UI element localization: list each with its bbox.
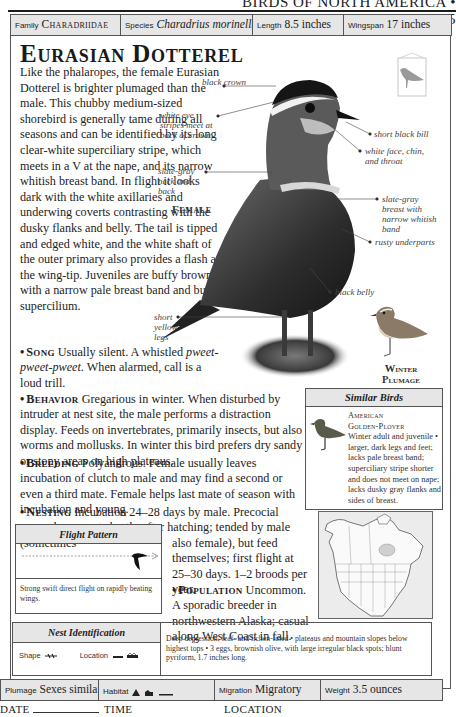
- plumage-label: Plumage: [5, 686, 37, 695]
- bullet-icon: •: [20, 392, 24, 406]
- similar-bird-entry: American Golden-Plover Winter adult and …: [348, 411, 442, 506]
- similar-bird-name-1: American: [348, 411, 442, 422]
- date-field[interactable]: DATE: [0, 703, 99, 715]
- golden-plover-illustration: [310, 417, 348, 451]
- bullet-icon: •: [20, 456, 24, 470]
- callout-short-yellow-legs: short yellow legs: [154, 312, 194, 342]
- species-label: Species: [125, 21, 153, 30]
- ground-scrape-nest-icon: [44, 652, 58, 660]
- nesting-key: Nesting: [26, 505, 71, 519]
- family-value: Charadriidae: [42, 18, 109, 30]
- migration-label: Migration: [219, 686, 252, 695]
- range-map: [318, 511, 433, 619]
- wingspan-label: Wingspan: [348, 21, 384, 30]
- migration-cell: Migration Migratory: [215, 680, 321, 700]
- length-cell: Length 8.5 inches: [253, 15, 344, 35]
- mountain-icon: [132, 689, 140, 696]
- bird-illustration-area: black crown white eye stripes meet at ba…: [160, 60, 400, 380]
- length-label: Length: [257, 21, 281, 30]
- breeding-key: Breeding: [26, 456, 79, 470]
- population-key: Population: [178, 583, 242, 597]
- nest-icons-row: Shape Location: [13, 643, 160, 668]
- nest-description: Deep depression, leaf- and lichen-lined …: [161, 623, 431, 675]
- tundra-icon: [145, 690, 153, 696]
- field-guide-bird-icon: [396, 52, 430, 100]
- song-key: Song: [26, 345, 54, 359]
- north-america-map-icon: [319, 512, 432, 618]
- header-rule: [8, 10, 456, 12]
- length-value: 8.5 inches: [284, 18, 331, 30]
- weight-label: Weight: [325, 686, 350, 695]
- nest-identification-box: Nest Identification Shape Location Deep …: [12, 622, 432, 676]
- female-label: Female: [172, 203, 212, 215]
- shape-label: Shape: [19, 651, 41, 660]
- bullet-icon: •: [172, 583, 176, 597]
- weight-value: 3.5 ounces: [353, 683, 402, 695]
- plumage-value: Sexes similar: [40, 683, 99, 695]
- habitat-icons: [131, 687, 177, 697]
- family-label: Family: [15, 21, 39, 30]
- bottom-info-bar: Plumage Sexes similar Habitat Migration …: [0, 679, 443, 701]
- winter-plumage-bird-illustration: [368, 302, 432, 362]
- plumage-cell: Plumage Sexes similar: [1, 680, 99, 700]
- habitat-label: Habitat: [103, 687, 128, 696]
- wingspan-cell: Wingspan 17 inches: [344, 15, 451, 35]
- flight-path-icon: [16, 544, 161, 579]
- similar-bird-name-2: Golden-Plover: [348, 422, 442, 433]
- female-dotterel-illustration: [160, 60, 400, 380]
- species-info-bar: Family Charadriidae Species Charadrius m…: [10, 14, 452, 36]
- callout-black-crown: black crown: [202, 77, 246, 87]
- location-label-record[interactable]: LOCATION: [224, 703, 282, 715]
- similar-bird-description: Winter adult and juvenile • larger, dark…: [348, 432, 442, 506]
- ground-location-icon: [112, 652, 140, 660]
- flight-pattern-description: Strong swift direct flight on rapidly be…: [16, 579, 161, 608]
- callout-rusty-underparts: rusty underparts: [375, 237, 445, 247]
- similar-birds-header: Similar Birds: [306, 389, 442, 407]
- time-label[interactable]: TIME: [104, 703, 132, 715]
- weight-cell: Weight 3.5 ounces: [321, 680, 442, 700]
- habitat-cell: Habitat: [99, 680, 215, 700]
- behavior-key: Behavior: [26, 392, 78, 406]
- location-label: Location: [80, 651, 108, 660]
- wingspan-value: 17 inches: [387, 18, 431, 30]
- nest-identification-left: Nest Identification Shape Location: [13, 623, 161, 675]
- callout-black-belly: black belly: [335, 287, 395, 297]
- flight-pattern-diagram: [16, 544, 161, 579]
- callout-white-eye-stripes: white eye stripes meet at back of crown: [160, 110, 218, 140]
- family-cell: Family Charadriidae: [11, 15, 121, 35]
- date-blank[interactable]: [33, 704, 99, 713]
- callout-slate-gray-breast: slate-gray breast with narrow whitish ba…: [382, 194, 442, 234]
- nest-identification-header: Nest Identification: [13, 623, 160, 643]
- flat-ground-icon: [159, 694, 173, 696]
- species-value: Charadrius morinellus: [156, 18, 253, 30]
- callout-slate-gray-neck: slate-gray neck and back: [158, 166, 204, 196]
- flight-pattern-header: Flight Pattern: [16, 525, 161, 544]
- callout-short-black-bill: short black bill: [374, 129, 434, 139]
- flight-pattern-box: Flight Pattern Strong swift direct fligh…: [15, 524, 162, 614]
- bullet-icon: •: [20, 505, 24, 519]
- winter-plumage-label: Winter Plumage: [369, 363, 433, 385]
- similar-birds-box: Similar Birds American Golden-Plover Win…: [305, 388, 443, 510]
- callout-white-face: white face, chin, and throat: [365, 146, 425, 166]
- species-cell: Species Charadrius morinellus: [121, 15, 253, 35]
- migration-value: Migratory: [255, 683, 302, 695]
- bullet-icon: •: [20, 345, 24, 359]
